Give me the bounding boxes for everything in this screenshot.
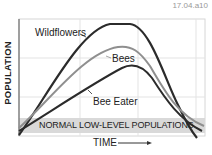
arrow-head-icon — [147, 141, 152, 145]
bee-eater-label: Bee Eater — [93, 96, 137, 107]
chart-plot — [0, 0, 212, 155]
figure-code: 17.04.a10 — [172, 1, 208, 10]
band-label: NORMAL LOW-LEVEL POPULATIONS — [39, 120, 194, 130]
wildflowers-label: Wildflowers — [35, 27, 86, 38]
bees-label: Bees — [112, 53, 135, 64]
y-axis-label: POPULATION — [2, 38, 12, 108]
x-axis-label: TIME — [93, 137, 117, 148]
